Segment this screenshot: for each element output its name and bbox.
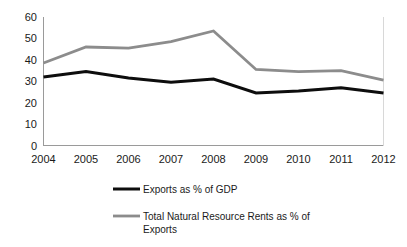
y-tick-label: 0 [31, 140, 37, 152]
y-tick-labels: 0102030405060 [25, 11, 37, 152]
x-tick-label: 2011 [329, 153, 353, 165]
x-tick-label: 2010 [286, 153, 310, 165]
y-tick-label: 40 [25, 54, 37, 66]
chart-axes [44, 17, 385, 146]
x-tick-label: 2012 [371, 153, 395, 165]
line-chart: 0102030405060 20042005200620072008200920… [0, 0, 407, 247]
x-tick-label: 2004 [31, 153, 55, 165]
x-tick-label: 2005 [74, 153, 98, 165]
y-tick-label: 60 [25, 11, 37, 23]
x-tick-label: 2009 [244, 153, 268, 165]
legend-label: Total Natural Resource Rents as % of [143, 211, 310, 222]
y-tick-label: 10 [25, 118, 37, 130]
y-tick-label: 50 [25, 32, 37, 44]
x-tick-label: 2006 [116, 153, 140, 165]
legend-label: Exports as % of GDP [143, 184, 238, 195]
x-tick-label: 2008 [201, 153, 225, 165]
chart-canvas: 0102030405060 20042005200620072008200920… [0, 0, 407, 247]
chart-legend: Exports as % of GDPTotal Natural Resourc… [113, 184, 310, 235]
x-tick-label: 2007 [159, 153, 183, 165]
x-tick-labels: 200420052006200720082009201020112012 [31, 153, 395, 165]
y-tick-label: 20 [25, 97, 37, 109]
y-tick-label: 30 [25, 75, 37, 87]
legend-label: Exports [143, 224, 177, 235]
series-line [44, 72, 384, 93]
data-series-group [44, 31, 384, 93]
